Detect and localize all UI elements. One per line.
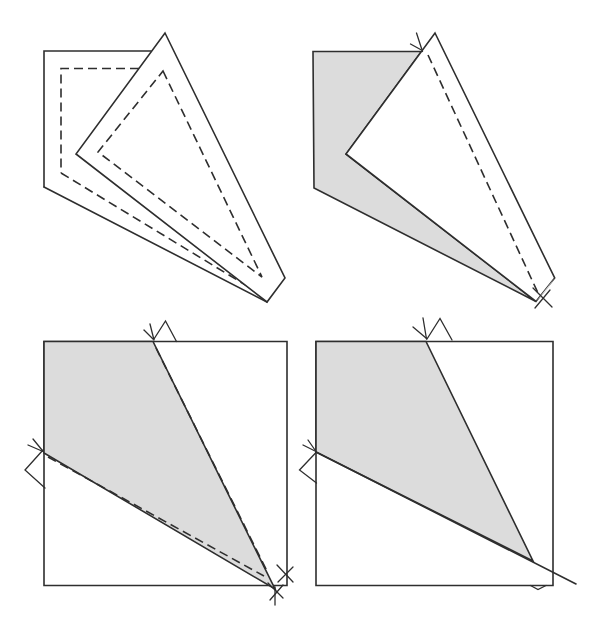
panel-bottom-left-square-with-shaded-fold-and-creases: [25, 321, 293, 605]
fold-region-shaded: [44, 342, 275, 590]
arrowhead-mark-left: [25, 450, 45, 488]
fold-region-shaded: [316, 342, 533, 562]
panel-top-right-folded-paper-shaded: [313, 33, 555, 308]
arrowhead-mark-top: [154, 321, 177, 342]
folded-flap-outline: [76, 33, 285, 302]
pinch-mark-top-barb: [411, 44, 421, 50]
panel-top-left-unfolded-paper-with-creases: [44, 33, 285, 302]
arrowhead-mark-left: [300, 452, 317, 483]
arrowhead-mark-top: [427, 319, 452, 341]
origami-diagram-canvas: [0, 0, 605, 627]
cross-mark-corner-a1: [277, 565, 293, 582]
origami-diagram-page: [0, 0, 605, 627]
panel-bottom-right-square-with-shaded-fold: [300, 318, 577, 590]
tick-mark-top-b: [413, 327, 426, 338]
